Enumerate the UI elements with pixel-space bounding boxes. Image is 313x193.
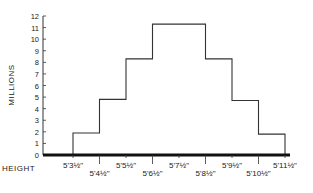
y-axis: 0123456789101112 [31, 12, 46, 160]
x-tick-label: 5'7½" [169, 161, 189, 170]
histogram-steps [73, 24, 285, 155]
y-tick-label: 6 [35, 82, 39, 91]
x-axis: 5'3½"5'4½"5'5½"5'6½"5'7½"5'8½"5'9½"5'10½… [43, 155, 297, 178]
x-tick-label: 5'3½" [63, 161, 83, 170]
step-histogram-chart: 0123456789101112 5'3½"5'4½"5'5½"5'6½"5'7… [0, 0, 313, 193]
x-tick-label: 5'9½" [222, 161, 242, 170]
x-tick-label: 5'5½" [116, 161, 136, 170]
y-tick-label: 11 [31, 24, 39, 33]
y-tick-label: 1 [35, 139, 39, 148]
y-tick-label: 12 [31, 12, 39, 21]
y-tick-label: 0 [35, 151, 39, 160]
y-tick-label: 8 [35, 58, 39, 67]
y-tick-label: 5 [35, 93, 39, 102]
y-tick-label: 9 [35, 47, 39, 56]
y-tick-label: 7 [35, 70, 39, 79]
y-tick-label: 4 [35, 105, 39, 114]
y-tick-label: 3 [35, 116, 39, 125]
x-tick-label: 5'6½" [143, 169, 163, 178]
x-tick-label: 5'11½" [273, 161, 297, 170]
x-axis-label: HEIGHT [2, 164, 35, 173]
y-tick-label: 10 [31, 35, 39, 44]
x-tick-label: 5'8½" [196, 169, 216, 178]
y-axis-label: MILLIONS [7, 64, 16, 105]
x-tick-label: 5'4½" [90, 169, 110, 178]
step-outline [73, 24, 285, 155]
y-tick-label: 2 [35, 128, 39, 137]
x-tick-label: 5'10½" [246, 169, 271, 178]
